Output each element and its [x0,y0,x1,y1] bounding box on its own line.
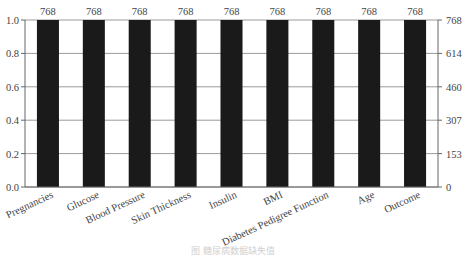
bar-chart: 0.000.21530.43070.64600.86141.0768768Pre… [0,0,466,259]
x-tick-label: Pregnancies [4,189,55,220]
bar [266,20,288,187]
y-tick-label: 0.8 [6,48,19,59]
x-tick-label: Outcome [382,189,422,215]
y-tick-label: 0.2 [6,149,19,160]
y-tick-label: 0.0 [6,182,19,193]
bar-value-label: 768 [86,6,102,17]
bar [312,20,334,187]
y-tick-label-right: 0 [446,182,451,193]
figure-caption: 图 糖尿病数据缺失值 [0,244,466,257]
y-tick-label-right: 307 [446,115,462,126]
bar [83,20,105,187]
bar-value-label: 768 [270,6,286,17]
y-tick-label: 0.4 [6,115,20,126]
y-tick-label: 1.0 [6,15,19,26]
bar-value-label: 768 [224,6,240,17]
bar-value-label: 768 [40,6,56,17]
x-tick-label: Age [356,189,377,207]
x-tick-label: BMI [262,189,285,208]
bar [220,20,242,187]
bar [37,20,59,187]
bar-value-label: 768 [132,6,148,17]
bar-value-label: 768 [315,6,331,17]
x-tick-label: Insulin [207,189,239,212]
bar-value-label: 768 [178,6,194,17]
y-tick-label-right: 768 [446,15,462,26]
y-tick-label: 0.6 [6,82,19,93]
bar [175,20,197,187]
bar [404,20,426,187]
bar [358,20,380,187]
bar-value-label: 768 [361,6,377,17]
bar-value-label: 768 [407,6,423,17]
y-tick-label-right: 460 [446,82,462,93]
y-tick-label-right: 153 [446,149,462,160]
bar [129,20,151,187]
y-tick-label-right: 614 [446,48,463,59]
